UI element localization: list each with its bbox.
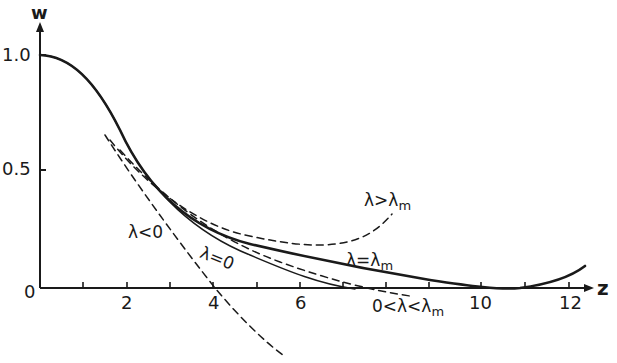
annotation-text: λ=λ: [346, 250, 380, 270]
curve-lambda-eq-0: [40, 55, 355, 289]
annotation-subscript: m: [380, 258, 393, 273]
curve-lambda-between: [120, 150, 410, 296]
annotation-subscript: m: [431, 304, 444, 319]
x-tick-label-12: 12: [559, 294, 582, 312]
annotation-subscript: m: [398, 198, 411, 213]
chart-plot-area: [0, 0, 617, 363]
annotation-text: 0<λ<λ: [372, 296, 431, 316]
x-tick-label-0: 0: [24, 283, 35, 301]
x-axis-arrow: [584, 284, 594, 292]
curve-lambda-eq-m: [40, 55, 585, 289]
y-axis-arrow: [36, 22, 44, 32]
annotation-lambda-lt-0: λ<0: [128, 224, 163, 241]
x-tick-label-6: 6: [295, 294, 306, 312]
y-tick-label-1: 1.0: [2, 46, 31, 64]
annotation-text: λ>λ: [364, 190, 398, 210]
x-tick-label-4: 4: [208, 294, 219, 312]
x-axis-label: z: [597, 278, 609, 298]
x-tick-label-2: 2: [121, 294, 132, 312]
x-tick-label-10: 10: [469, 294, 492, 312]
annotation-lambda-between: 0<λ<λm: [372, 298, 444, 315]
annotation-lambda-gt-m: λ>λm: [364, 192, 411, 209]
y-axis-label: w: [31, 4, 48, 22]
annotation-lambda-eq-m: λ=λm: [346, 252, 393, 269]
y-tick-label-05: 0.5: [2, 160, 31, 178]
